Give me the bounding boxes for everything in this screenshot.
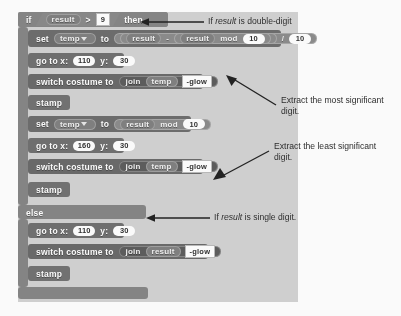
switch-costume-label: switch costume to (36, 77, 114, 87)
if-block-left-spine (18, 27, 28, 205)
goto-xy-block-lsd[interactable]: go to x: 160 y: 30 (28, 138, 124, 153)
stamp-label-lsd: stamp (36, 185, 62, 195)
goto-x-label-lsd: go to x: (36, 141, 68, 151)
annotation-arrow-most-significant (226, 75, 280, 109)
join-arg1-result[interactable]: result (146, 246, 181, 257)
stamp-block-msd[interactable]: stamp (28, 95, 70, 110)
switch-costume-label-single: switch costume to (36, 247, 114, 257)
goto-xy-block-msd[interactable]: go to x: 110 y: 30 (28, 53, 124, 68)
goto-xy-block-single[interactable]: go to x: 110 y: 30 (28, 223, 124, 238)
note-double-digit: If result is double-digit (208, 16, 292, 27)
switch-costume-block-lsd[interactable]: switch costume to join temp -glow (28, 159, 203, 174)
goto-y-input[interactable]: 30 (113, 56, 135, 66)
goto-x-input-single[interactable]: 110 (73, 226, 95, 236)
note-double-digit-suffix: is double-digit (236, 16, 291, 26)
join-keyword-single: join (126, 247, 141, 256)
join-arg1-temp-lsd[interactable]: temp (146, 161, 178, 172)
divide-sign: / (282, 34, 284, 43)
mod-operator-block[interactable]: result mod 10 (174, 33, 271, 44)
if-keyword: if (26, 15, 32, 25)
note-most-significant-line2: digit. (281, 106, 384, 117)
mod-value-input[interactable]: 10 (243, 34, 265, 44)
variable-dropdown-temp-lsd[interactable]: temp (54, 119, 96, 130)
goto-y-label: y: (100, 56, 108, 66)
goto-y-label-lsd: y: (100, 141, 108, 151)
switch-costume-block-single[interactable]: switch costume to join result -glow (28, 244, 208, 259)
mod-keyword-lsd: mod (160, 120, 178, 129)
to-keyword: to (101, 34, 109, 44)
chevron-down-icon (81, 37, 87, 41)
stamp-block-single[interactable]: stamp (28, 266, 70, 281)
variable-dropdown-temp[interactable]: temp (54, 33, 96, 44)
if-block-bottom-cap (18, 287, 148, 299)
condition-right-operand[interactable]: 9 (96, 13, 110, 26)
stamp-label: stamp (36, 98, 62, 108)
mod-value-input-lsd[interactable]: 10 (183, 119, 205, 129)
note-least-significant-line1: Extract the least significant (274, 141, 376, 152)
goto-x-label: go to x: (36, 56, 68, 66)
goto-x-input[interactable]: 110 (73, 56, 95, 66)
goto-y-input-lsd[interactable]: 30 (113, 141, 135, 151)
join-operator-block-single[interactable]: join result -glow (119, 246, 222, 257)
divisor-input[interactable]: 10 (289, 34, 311, 44)
subtraction-operator-block[interactable]: result - result mod 10 (120, 33, 276, 44)
join-arg2-glow-single[interactable]: -glow (185, 245, 216, 258)
set-variable-block-lsd[interactable]: set temp to result mod 10 (28, 116, 191, 132)
set-keyword-lsd: set (36, 119, 49, 129)
goto-y-input-single[interactable]: 30 (113, 226, 135, 236)
join-operator-block-lsd[interactable]: join temp -glow (119, 161, 219, 172)
condition-left-operand[interactable]: result (46, 14, 81, 25)
operand-result-1[interactable]: result (126, 33, 161, 44)
switch-costume-label-lsd: switch costume to (36, 162, 114, 172)
goto-y-label-single: y: (100, 226, 108, 236)
mod-keyword: mod (220, 34, 238, 43)
annotation-arrow-single-digit (146, 212, 212, 224)
join-keyword-lsd: join (126, 162, 141, 171)
mod-operator-block-lsd[interactable]: result mod 10 (114, 119, 211, 130)
note-single-digit-emphasis: result (221, 212, 242, 222)
stamp-block-lsd[interactable]: stamp (28, 182, 70, 197)
annotation-arrow-double-digit (140, 16, 206, 28)
join-arg1-temp[interactable]: temp (146, 76, 178, 87)
note-double-digit-emphasis: result (215, 16, 236, 26)
switch-costume-block-msd[interactable]: switch costume to join temp -glow (28, 74, 203, 89)
stamp-label-single: stamp (36, 269, 62, 279)
set-keyword: set (36, 34, 49, 44)
join-operator-block-msd[interactable]: join temp -glow (119, 76, 219, 87)
else-keyword: else (26, 208, 43, 218)
else-keyword-block[interactable]: else (18, 205, 146, 220)
goto-x-input-lsd[interactable]: 160 (73, 141, 95, 151)
note-least-significant-line2: digit. (274, 152, 376, 163)
operand-result-2[interactable]: result (180, 33, 215, 44)
note-single-digit-suffix: is single digit. (242, 212, 296, 222)
join-keyword: join (126, 77, 141, 86)
note-single-digit: If result is single digit. (214, 212, 296, 223)
note-most-significant-line1: Extract the most significant (281, 95, 384, 106)
else-block-left-spine (18, 219, 28, 287)
note-least-significant: Extract the least significant digit. (274, 141, 376, 162)
operand-result-lsd[interactable]: result (120, 119, 155, 130)
annotation-arrow-least-significant (213, 148, 273, 180)
set-variable-block-msd[interactable]: set temp to result - result mod 10 / 10 (28, 30, 281, 47)
join-arg2-glow-lsd[interactable]: -glow (182, 160, 213, 173)
condition-greater-than[interactable]: result > 9 (36, 13, 121, 26)
minus-sign: - (166, 34, 169, 43)
join-arg2-glow[interactable]: -glow (182, 75, 213, 88)
goto-x-label-single: go to x: (36, 226, 68, 236)
greater-than-operator: > (86, 15, 91, 25)
note-most-significant: Extract the most significant digit. (281, 95, 384, 116)
to-keyword-lsd: to (101, 119, 109, 129)
chevron-down-icon (81, 122, 87, 126)
division-operator-block[interactable]: result - result mod 10 / 10 (114, 33, 317, 44)
